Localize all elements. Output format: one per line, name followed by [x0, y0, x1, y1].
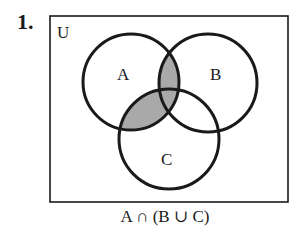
set-a-label: A [117, 65, 130, 84]
set-b-label: B [210, 65, 221, 84]
set-c-label: C [161, 150, 172, 169]
universe-label: U [57, 23, 69, 42]
caption: A ∩ (B ∪ C) [0, 206, 297, 227]
venn-diagram: U A B C [0, 0, 297, 230]
shaded-region [119, 34, 257, 189]
